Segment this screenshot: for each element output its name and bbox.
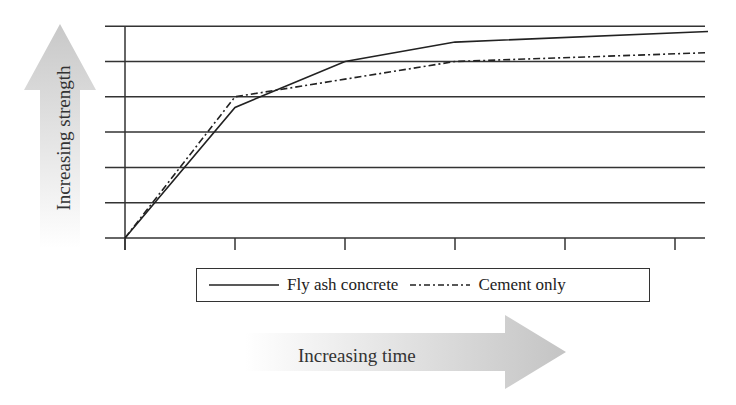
series-fly-ash-concrete xyxy=(125,31,708,238)
series-cement-only xyxy=(125,53,708,238)
y-axis-label: Increasing strength xyxy=(53,65,75,210)
series-lines xyxy=(125,31,708,238)
legend: Fly ash concrete Cement only xyxy=(196,268,650,302)
x-axis-label: Increasing time xyxy=(298,345,416,367)
legend-label: Fly ash concrete xyxy=(287,275,398,295)
legend-label: Cement only xyxy=(478,275,565,295)
gridlines xyxy=(105,26,705,250)
dash-dot-line-icon xyxy=(410,282,470,288)
legend-item-fly-ash: Fly ash concrete xyxy=(197,275,398,295)
solid-line-icon xyxy=(209,282,279,288)
legend-item-cement: Cement only xyxy=(398,275,565,295)
